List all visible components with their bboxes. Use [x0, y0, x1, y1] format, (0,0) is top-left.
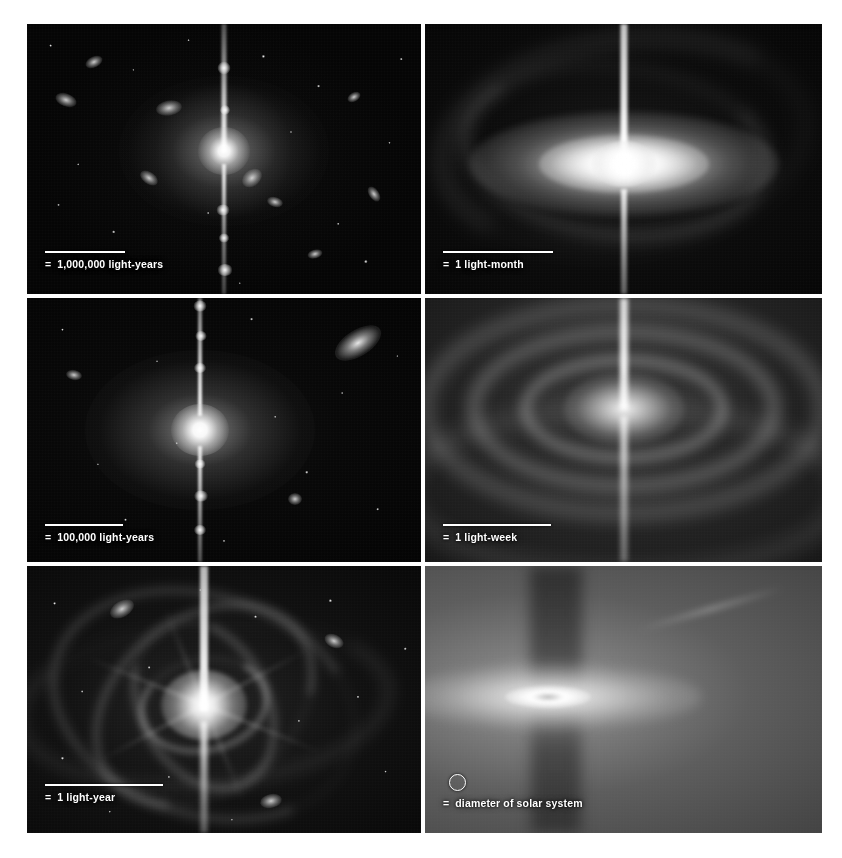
scale-annotation: = 1 light-week: [443, 524, 551, 543]
figure-root: = 1,000,000 light-years = 1 light-month: [0, 0, 842, 858]
scale-equals: =: [45, 791, 51, 803]
point-stars: [27, 298, 421, 562]
panel-bottom-left: = 1 light-year: [27, 566, 421, 833]
scale-bar: [443, 251, 553, 253]
scale-label: 1 light-month: [455, 258, 523, 270]
scale-annotation: = diameter of solar system: [443, 774, 583, 809]
scale-equals: =: [45, 258, 51, 270]
scale-label: 1,000,000 light-years: [57, 258, 163, 270]
scale-equals: =: [443, 258, 449, 270]
scale-annotation: = 1 light-year: [45, 784, 163, 803]
scale-annotation: = 1 light-month: [443, 251, 553, 270]
scale-annotation: = 1,000,000 light-years: [45, 251, 163, 270]
panel-bottom-right: = diameter of solar system: [425, 566, 822, 833]
panel-middle-right: = 1 light-week: [425, 298, 822, 562]
panel-top-left: = 1,000,000 light-years: [27, 24, 421, 294]
scale-bar: [45, 784, 163, 786]
panel-middle-left: = 100,000 light-years: [27, 298, 421, 562]
scale-bar: [443, 524, 551, 526]
scale-equals: =: [443, 531, 449, 543]
scale-label: 100,000 light-years: [57, 531, 154, 543]
scale-equals: =: [443, 797, 449, 809]
scale-circle: [449, 774, 466, 791]
scale-label: diameter of solar system: [455, 797, 582, 809]
panel-top-right: = 1 light-month: [425, 24, 822, 294]
scale-label: 1 light-week: [455, 531, 517, 543]
background-glow: [425, 298, 822, 562]
scale-bar: [45, 524, 123, 526]
scale-equals: =: [45, 531, 51, 543]
scale-label: 1 light-year: [57, 791, 115, 803]
scale-bar: [45, 251, 125, 253]
scale-annotation: = 100,000 light-years: [45, 524, 154, 543]
